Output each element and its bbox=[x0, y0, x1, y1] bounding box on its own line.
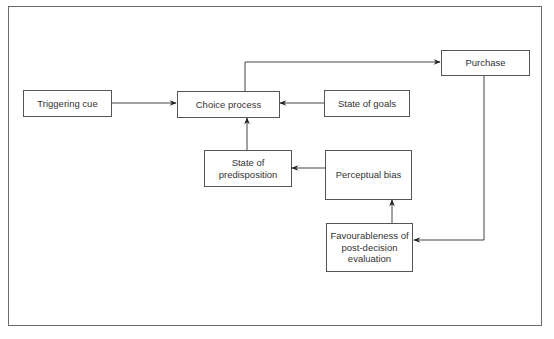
node-label-line-2: predisposition bbox=[219, 169, 278, 181]
node-state-of-goals: State of goals bbox=[324, 90, 410, 117]
edge-choice-to-purchase bbox=[245, 62, 440, 91]
node-perceptual-bias: Perceptual bias bbox=[325, 150, 412, 200]
node-label: Choice process bbox=[196, 99, 261, 111]
edge-purchase-to-favourableness bbox=[414, 75, 484, 240]
node-label-line-3: evaluation bbox=[348, 253, 391, 265]
node-label: State of goals bbox=[338, 98, 396, 110]
node-label: Triggering cue bbox=[37, 98, 97, 110]
node-favourableness-evaluation: Favourableness of post-decision evaluati… bbox=[326, 223, 413, 272]
node-triggering-cue: Triggering cue bbox=[23, 90, 112, 117]
node-label-line-1: State of bbox=[232, 157, 265, 169]
node-choice-process: Choice process bbox=[177, 91, 280, 118]
node-label: Perceptual bias bbox=[336, 169, 401, 181]
node-label: Purchase bbox=[465, 57, 505, 69]
node-state-of-predisposition: State of predisposition bbox=[204, 150, 292, 187]
node-label-line-2: post-decision bbox=[342, 242, 398, 254]
node-label-line-1: Favourableness of bbox=[330, 230, 408, 242]
node-purchase: Purchase bbox=[441, 50, 530, 76]
